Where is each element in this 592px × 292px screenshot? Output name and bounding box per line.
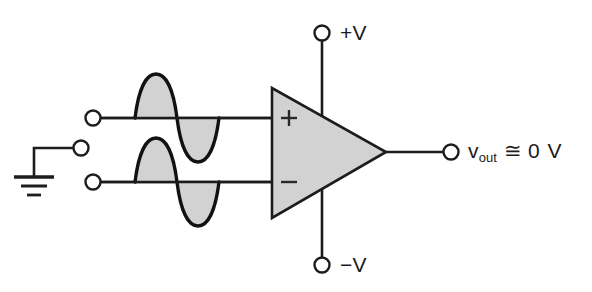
negative-rail-label: −V xyxy=(340,254,367,275)
opamp-triangle xyxy=(272,88,386,218)
output-value: 0 V xyxy=(528,140,563,161)
output-subscript: out xyxy=(479,151,497,164)
terminals-group xyxy=(74,26,459,273)
opamp-body xyxy=(272,88,386,218)
noninverting-input-terminal[interactable] xyxy=(86,111,101,126)
positive-rail-label: +V xyxy=(340,22,367,43)
output-voltage-label: vout≅0 V xyxy=(468,140,563,161)
ground-terminal[interactable] xyxy=(74,141,89,156)
circuit-diagram: +V −V vout≅0 V xyxy=(0,0,592,292)
positive-rail-terminal[interactable] xyxy=(315,26,330,41)
inverting-input-terminal[interactable] xyxy=(86,175,101,190)
ground-icon xyxy=(14,177,54,195)
ground-lead-wire xyxy=(34,148,74,177)
approx-equal-icon: ≅ xyxy=(504,140,522,161)
output-terminal[interactable] xyxy=(444,145,459,160)
negative-rail-terminal[interactable] xyxy=(315,258,330,273)
output-variable: v xyxy=(468,140,479,161)
